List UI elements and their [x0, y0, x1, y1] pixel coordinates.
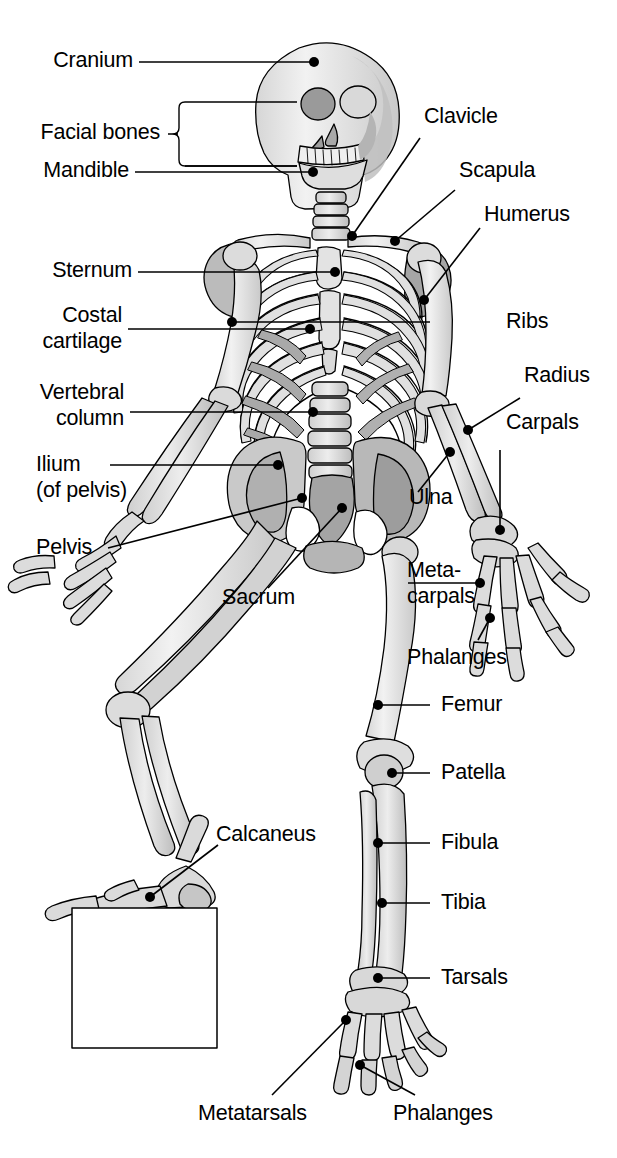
label-carpals: Carpals: [506, 410, 579, 435]
label-clavicle: Clavicle: [424, 104, 498, 129]
label-costal-cartilage-line2: cartilage: [0, 329, 122, 354]
label-calcaneus: Calcaneus: [216, 822, 316, 847]
label-metatarsals: Metatarsals: [198, 1101, 307, 1126]
label-vertebral-column-line1: Vertebral: [0, 380, 124, 405]
label-metacarpals-line2: carpals: [407, 584, 475, 609]
label-ilium-line1: Ilium: [36, 452, 80, 477]
label-vertebral-column-line2: column: [0, 406, 124, 431]
support-box: [72, 908, 217, 1048]
label-sternum: Sternum: [0, 258, 132, 283]
label-tibia: Tibia: [441, 890, 486, 915]
label-metacarpals-line1: Meta-: [407, 558, 461, 583]
leader-scapula: [395, 190, 455, 241]
label-sacrum: Sacrum: [222, 585, 295, 610]
label-patella: Patella: [441, 760, 505, 785]
label-pelvis: Pelvis: [36, 535, 92, 560]
label-phalanges-hand: Phalanges: [407, 645, 507, 670]
label-radius: Radius: [524, 363, 590, 388]
label-facial-bones: Facial bones: [0, 120, 160, 145]
label-humerus: Humerus: [484, 202, 570, 227]
label-cranium: Cranium: [0, 48, 133, 73]
right-arm: [407, 243, 589, 681]
label-phalanges-foot: Phalanges: [393, 1101, 493, 1126]
label-scapula: Scapula: [459, 158, 535, 183]
skull: [256, 43, 400, 209]
right-leg: [334, 537, 447, 1095]
vertebral-column: [308, 382, 352, 479]
label-ribs: Ribs: [506, 309, 548, 334]
label-mandible: Mandible: [0, 158, 129, 183]
label-femur: Femur: [441, 692, 502, 717]
label-tarsals: Tarsals: [441, 965, 508, 990]
label-fibula: Fibula: [441, 830, 498, 855]
label-costal-cartilage-line1: Costal: [0, 303, 122, 328]
label-ilium-line2: (of pelvis): [36, 478, 127, 503]
cervical-spine: [312, 192, 350, 240]
label-ulna: Ulna: [409, 485, 452, 510]
skeleton-diagram: Cranium Facial bones Mandible Clavicle S…: [0, 0, 617, 1158]
